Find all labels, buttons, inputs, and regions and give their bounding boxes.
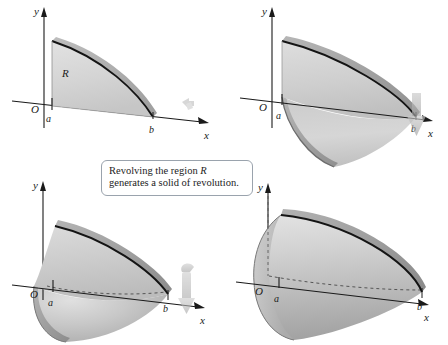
caption-line-1-text: Revolving the region xyxy=(109,165,200,176)
x-axis-label: x xyxy=(427,127,433,139)
origin-label: O xyxy=(31,103,39,115)
caption-callout: Revolving the region R generates a solid… xyxy=(101,160,253,196)
origin-label: O xyxy=(255,285,263,297)
y-axis-label: y xyxy=(32,179,38,191)
y-axis-label: y xyxy=(33,5,39,17)
tick-a-label: a xyxy=(48,297,53,308)
region-r-panel: y x a b O xyxy=(0,0,224,172)
y-axis xyxy=(41,7,47,128)
y-axis-label: y xyxy=(257,181,263,193)
solid-upper-half xyxy=(34,220,172,300)
y-axis xyxy=(269,7,275,128)
partial-revolution-panel: y x a b O xyxy=(224,0,448,172)
origin-label: O xyxy=(259,101,267,113)
half-revolution-panel: y x a b xyxy=(0,172,224,345)
solid-of-revolution-figure: y x a b O xyxy=(0,0,448,345)
tick-b-label: b xyxy=(163,303,168,314)
tick-a-label: a xyxy=(274,293,279,304)
tick-a-label: a xyxy=(276,110,281,121)
region-label: R xyxy=(61,67,69,79)
x-axis-label: x xyxy=(423,311,429,323)
solid-body xyxy=(254,209,426,340)
tick-a-label: a xyxy=(46,113,51,124)
x-axis-label: x xyxy=(199,314,205,326)
small-rotation-arrow-icon xyxy=(182,98,194,110)
x-axis-label: x xyxy=(203,129,209,141)
caption-line-2-text: generates a solid of revolution. xyxy=(109,177,239,188)
origin-label: O xyxy=(30,288,38,300)
y-axis-label: y xyxy=(261,5,267,17)
tick-b-label: b xyxy=(417,301,422,312)
tick-b-label: b xyxy=(149,124,154,135)
solid-of-revolution-panel: y x xyxy=(224,172,448,345)
caption-region-symbol: R xyxy=(200,165,206,176)
